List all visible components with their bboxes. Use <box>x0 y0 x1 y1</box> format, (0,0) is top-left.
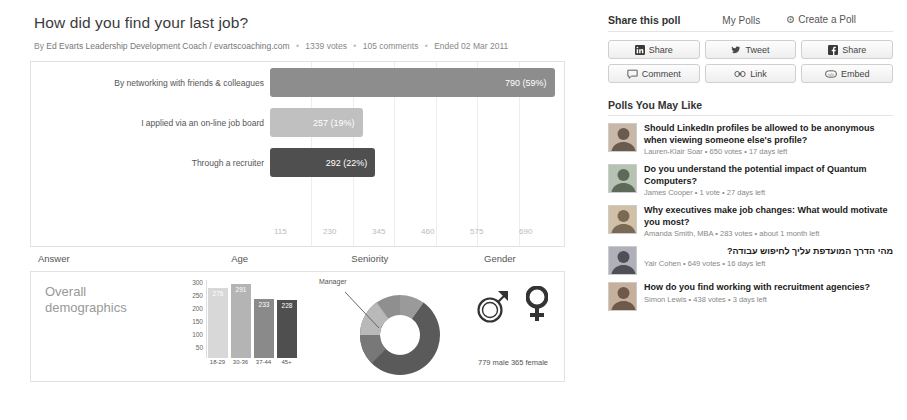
demographics-heading-line1: Overall <box>45 284 86 299</box>
age-chart-bar-value: 291 <box>231 286 251 293</box>
list-item[interactable]: Why executives make job changes: What wo… <box>608 205 893 239</box>
share-button-label: Share <box>649 45 673 55</box>
chart-x-tick: 345 <box>368 227 417 236</box>
gender-chart: 779 male 365 female <box>461 286 561 324</box>
chart-bar-track: 292 (22%) <box>270 148 564 177</box>
share-button-comment[interactable]: Comment <box>608 64 700 83</box>
share-button-label: Share <box>842 45 866 55</box>
poll-page: How did you find your last job? By Ed Ev… <box>0 0 907 420</box>
demographics-panel: Overall demographics 30025020015010050 2… <box>30 272 565 382</box>
share-button-label: Embed <box>841 69 870 79</box>
list-item-body: מהי הדרך המועדפת עליך לחיפוש עבודה?Yair … <box>644 246 893 275</box>
poll-meta: Amanda Smith, MBA • 283 votes • about 1 … <box>644 229 893 239</box>
tab-seniority[interactable]: Seniority <box>305 246 435 272</box>
age-chart-bar[interactable]: 228 <box>277 300 297 358</box>
chart-bar[interactable]: 790 (59%) <box>270 68 555 97</box>
poll-question-link[interactable]: Should LinkedIn profiles be allowed to b… <box>644 123 893 146</box>
list-item[interactable]: Do you understand the potential impact o… <box>608 164 893 198</box>
share-button-tweet[interactable]: Tweet <box>705 40 797 59</box>
list-item[interactable]: Should LinkedIn profiles be allowed to b… <box>608 123 893 157</box>
age-chart-bar[interactable]: 233 <box>254 299 274 358</box>
chart-bar[interactable]: 257 (19%) <box>270 108 363 137</box>
age-chart-bar-value: 233 <box>254 301 274 308</box>
share-this-poll-title: Share this poll <box>608 14 680 26</box>
age-chart-x-axis: 18-2930-3637-4445+ <box>206 359 298 365</box>
chart-bar-label: Through a recruiter <box>31 158 270 168</box>
byline-separator: • <box>292 41 303 51</box>
chart-x-tick: 230 <box>319 227 368 236</box>
chart-bar-row: I applied via an on-line job board257 (1… <box>31 108 564 137</box>
list-item-body: Do you understand the potential impact o… <box>644 164 893 198</box>
poll-question-link[interactable]: Why executives make job changes: What wo… <box>644 205 893 228</box>
chart-bars: By networking with friends & colleagues7… <box>31 68 564 188</box>
age-chart-y-tick: 300 <box>192 279 203 286</box>
share-button-link[interactable]: Link <box>705 64 797 83</box>
age-chart-bar[interactable]: 276 <box>208 288 228 358</box>
chart-bar-track: 790 (59%) <box>270 68 564 97</box>
share-button-share[interactable]: Share <box>608 40 700 59</box>
chart-bar[interactable]: 292 (22%) <box>270 148 375 177</box>
age-chart: 30025020015010050 276291233228 18-2930-3… <box>183 280 303 378</box>
share-buttons: ShareTweetShareCommentLink</>Embed <box>608 40 893 83</box>
chart-x-tick: 115 <box>270 227 319 236</box>
create-a-poll-link[interactable]: Create a Poll <box>786 14 856 25</box>
poll-question-link[interactable]: How do you find working with recruitment… <box>644 282 893 294</box>
polls-list: Should LinkedIn profiles be allowed to b… <box>608 123 893 311</box>
age-chart-y-tick: 150 <box>192 318 203 325</box>
sidebar-header: Share this poll My Polls Create a Poll <box>608 14 893 32</box>
age-chart-x-tick: 37-44 <box>252 359 275 365</box>
twitter-bird-icon <box>731 45 741 55</box>
chain-link-icon <box>734 70 746 78</box>
male-symbol-icon <box>474 286 514 324</box>
age-chart-bar-value: 276 <box>208 290 228 297</box>
chart-x-tick: 460 <box>417 227 466 236</box>
age-chart-y-tick: 50 <box>196 344 203 351</box>
poll-comments: 105 comments <box>363 41 419 51</box>
avatar <box>608 282 637 311</box>
main-content: How did you find your last job? By Ed Ev… <box>0 0 600 420</box>
poll-meta: Simon Lewis • 438 votes • 3 days left <box>644 295 893 305</box>
poll-meta: Lauren-Klair Soar • 650 votes • 17 days … <box>644 147 893 157</box>
chart-bar-row: Through a recruiter292 (22%) <box>31 148 564 177</box>
age-chart-bar-value: 228 <box>277 302 297 309</box>
poll-question-link[interactable]: מהי הדרך המועדפת עליך לחיפוש עבודה? <box>644 246 893 258</box>
age-chart-x-tick: 18-29 <box>206 359 229 365</box>
avatar <box>608 246 637 275</box>
seniority-leader-line-icon <box>341 288 411 348</box>
chart-x-tick: 575 <box>466 227 515 236</box>
facebook-icon <box>828 45 838 55</box>
my-polls-link[interactable]: My Polls <box>722 15 760 26</box>
linkedin-icon <box>635 45 645 55</box>
list-item[interactable]: How do you find working with recruitment… <box>608 282 893 311</box>
tab-answer[interactable]: Answer <box>30 246 175 272</box>
share-button-label: Tweet <box>745 45 769 55</box>
demographics-tabs: Answer Age Seniority Gender <box>30 246 565 272</box>
embed-code-icon: </> <box>825 70 837 78</box>
share-button-share[interactable]: Share <box>801 40 893 59</box>
chart-x-axis: 115230345460575690 <box>270 227 564 236</box>
age-chart-y-tick: 200 <box>192 305 203 312</box>
byline-separator-2: • <box>349 41 360 51</box>
byline-separator-3: • <box>421 41 432 51</box>
speech-bubble-icon <box>627 69 638 79</box>
polls-you-may-like-title: Polls You May Like <box>608 99 893 116</box>
age-chart-y-tick: 250 <box>192 292 203 299</box>
poll-question-link[interactable]: Do you understand the potential impact o… <box>644 164 893 187</box>
age-chart-x-tick: 30-36 <box>229 359 252 365</box>
svg-text:</>: </> <box>828 71 835 76</box>
tab-gender[interactable]: Gender <box>435 246 565 272</box>
byline-prefix: By <box>34 41 44 51</box>
seniority-chart: Manager <box>319 278 449 382</box>
seniority-annotation: Manager <box>319 278 347 285</box>
share-button-embed[interactable]: </>Embed <box>801 64 893 83</box>
chart-bar-label: I applied via an on-line job board <box>31 118 270 128</box>
age-chart-plot: 276291233228 <box>206 280 298 358</box>
share-button-label: Link <box>750 69 767 79</box>
poll-end-date: Ended 02 Mar 2011 <box>434 41 508 51</box>
age-chart-bar[interactable]: 291 <box>231 284 251 358</box>
tab-age[interactable]: Age <box>175 246 305 272</box>
share-button-label: Comment <box>642 69 681 79</box>
list-item[interactable]: מהי הדרך המועדפת עליך לחיפוש עבודה?Yair … <box>608 246 893 275</box>
gear-icon <box>786 15 795 24</box>
poll-meta: Yair Cohen • 649 votes • 16 days left <box>644 259 893 269</box>
